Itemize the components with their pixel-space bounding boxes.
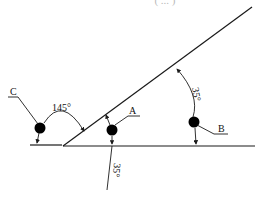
label-a: A: [129, 105, 137, 116]
arrow-a-up: [106, 115, 110, 125]
inclined-plane-diagram: ( ... ) C 145° A 35° B 35°: [0, 0, 269, 199]
arrow-b-down: [195, 128, 196, 144]
ball-c: [35, 123, 46, 134]
arc-145: [44, 111, 84, 131]
angle-35-below-label: 35°: [111, 163, 123, 178]
ball-a: [107, 125, 118, 136]
line-below-a: [107, 146, 112, 190]
leader-c: [8, 97, 38, 124]
leader-a: [115, 116, 140, 125]
angle-145-label: 145°: [52, 102, 71, 113]
angle-35-b-label: 35°: [190, 86, 203, 102]
label-c: C: [10, 86, 17, 97]
label-b: B: [218, 123, 225, 134]
diagram-canvas: ( ... ) C 145° A 35° B 35°: [0, 0, 269, 199]
caption-cut: ( ... ): [154, 0, 175, 7]
arrow-c-down: [37, 133, 39, 143]
